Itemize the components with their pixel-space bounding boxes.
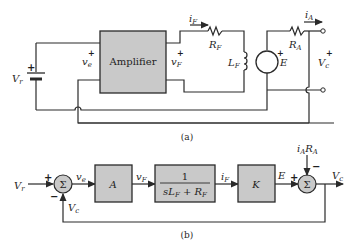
- ia-ra-label: iARA: [297, 143, 318, 156]
- tf-numerator: 1: [182, 171, 188, 182]
- ra-label: RA: [288, 39, 302, 52]
- b-vf-label: vF: [136, 171, 148, 184]
- e-label: E: [279, 57, 288, 68]
- ia-label: iA: [305, 9, 313, 22]
- sum2-minus-sign: −: [312, 161, 320, 172]
- b-vc-label: Vc: [332, 170, 343, 183]
- sum1-minus-sign: −: [50, 191, 58, 202]
- b-vr-label: Vr: [14, 180, 25, 193]
- sum1-plus-sign: +: [44, 172, 52, 183]
- caption-b: (b): [181, 230, 194, 240]
- circuit-diagram-a: + Vr Amplifier + ve + vF iF RF LF: [12, 9, 334, 142]
- b-if-label: iF: [221, 171, 230, 184]
- vr-label: Vr: [12, 73, 23, 86]
- b-ve-label: ve: [76, 171, 86, 184]
- vc-label: Vc: [318, 57, 329, 70]
- vf-plus-sign: +: [177, 49, 184, 58]
- b-vc-feedback-label: Vc: [68, 202, 79, 215]
- vc-plus-sign: +: [326, 49, 333, 58]
- ve-plus-sign: +: [88, 49, 95, 58]
- b-e-label: E: [277, 170, 286, 181]
- block-diagram-b: Vr + − Σ ve A vF 1 sLF + RF iF K E + Σ i…: [14, 143, 343, 240]
- amplifier-label: Amplifier: [109, 56, 157, 67]
- sigma-1: Σ: [59, 179, 66, 190]
- if-label: iF: [189, 13, 198, 26]
- battery-plus-sign: +: [27, 62, 35, 73]
- control-system-diagram: + Vr Amplifier + ve + vF iF RF LF: [0, 0, 355, 245]
- caption-a: (a): [181, 132, 193, 142]
- emf-source: [256, 51, 278, 73]
- battery-vr: + Vr: [12, 43, 45, 110]
- sum2-plus-sign: +: [290, 172, 298, 183]
- lf-label: LF: [227, 57, 241, 70]
- block-a-label: A: [108, 179, 116, 190]
- block-k-label: K: [251, 179, 260, 190]
- rf-label: RF: [208, 39, 223, 52]
- sigma-2: Σ: [303, 179, 310, 190]
